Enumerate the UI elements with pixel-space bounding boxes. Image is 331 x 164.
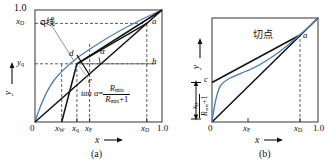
panel-a-xaxis-label: x xyxy=(95,135,99,145)
panel-a-ytick-one: 1.0 xyxy=(14,3,27,13)
panel-b-xaxis-arrow-head xyxy=(277,138,283,143)
panel-b-yaxis-arrow-head xyxy=(198,38,203,44)
panel-b-yaxis-label: y xyxy=(191,65,201,69)
panel-b-caption: (b) xyxy=(259,149,271,159)
panel-a-caption: (a) xyxy=(91,149,102,159)
panel-a-point-a: a xyxy=(152,17,157,26)
panel-b-point-c: c xyxy=(204,75,208,84)
panel-a-yaxis-arrow-head xyxy=(10,62,15,68)
formula-denominator: Rmin+1 xyxy=(103,95,130,105)
panel-b-xtick-xd: xD xyxy=(294,124,302,134)
panel-a-xtick-one: 1.0 xyxy=(157,124,168,133)
panel-a-xtick-zero: 0 xyxy=(30,124,35,133)
figure-container: 1.0 xD yq y 0 xW xq xF xD 1.0 x q线 d e a… xyxy=(0,0,331,164)
panel-a-xaxis-arrow-head xyxy=(117,138,123,143)
panel-b-xaxis-label: x xyxy=(255,135,259,145)
panel-a-point-h: h xyxy=(152,57,157,66)
panel-b-intercept-label: xDRmin+1 xyxy=(190,94,209,118)
panel-a-point-d: d xyxy=(69,49,74,58)
formula-fraction: RminRmin+1 xyxy=(103,84,130,105)
panel-a-ytick-xd: xD xyxy=(16,17,24,27)
panel-a-xtick-xf: xF xyxy=(85,124,92,134)
panel-b-intercept-denominator: Rmin+1 xyxy=(200,94,209,118)
panel-a-xtick-xq: xq xyxy=(72,124,79,134)
panel-a-ytick-yq: yq xyxy=(17,58,24,68)
panel-b-point-a: a xyxy=(303,31,308,40)
panel-a-formula: tan α=RminRmin+1 xyxy=(81,84,130,105)
panel-b-xtick-zero: 0 xyxy=(208,124,213,133)
formula-lhs: tan α xyxy=(81,88,98,98)
panel-a-xtick-xw: xW xyxy=(55,124,65,134)
panel-b-xtick-xf: xF xyxy=(243,124,250,134)
panel-a-yaxis-label: y xyxy=(3,91,13,95)
panel-a-qline-label: q线 xyxy=(40,18,55,27)
panel-b-tangent-point-label: 切点 xyxy=(253,30,273,40)
panel-b-intercept-numerator: xD xyxy=(190,94,200,118)
panel-b-intercept-fraction: xDRmin+1 xyxy=(190,94,209,118)
panel-b-xtick-one: 1.0 xyxy=(313,124,324,133)
panel-a-xtick-xd: xD xyxy=(141,124,149,134)
panel-a-alpha-label: α xyxy=(100,47,105,56)
